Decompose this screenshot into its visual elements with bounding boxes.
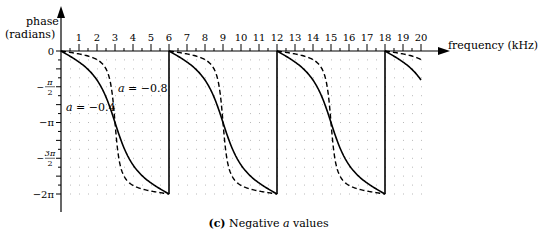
x-tick-label: 7 [184,32,190,43]
x-tick-label: 11 [253,32,266,43]
x-tick-label: 12 [271,32,284,43]
label-a-minus-0-4: a = −0.4 [66,102,115,113]
x-tick-label: 6 [166,32,172,43]
y-tick-label-den: 2 [47,159,52,168]
x-tick-label: 13 [289,32,302,43]
y-tick-label-den: 2 [47,88,52,97]
y-tick-label: 0 [48,46,54,57]
x-tick-label: 15 [325,32,338,43]
y-tick-label-sign: − [36,153,44,163]
x-tick-label: 4 [130,32,136,43]
y-tick-label-sign: − [36,82,44,92]
curve-a-minus-0-8 [277,51,385,194]
x-tick-label: 1 [76,32,82,43]
x-axis-label: frequency (kHz) [448,40,538,51]
grid-dots [70,60,422,194]
x-tick-label: 9 [220,32,226,43]
y-tick-label-num: 3π [45,149,56,158]
curve-a-minus-0-8 [385,51,421,60]
x-tick-label: 5 [148,32,154,43]
y-tick-label: −2π [33,189,55,200]
x-tick-label: 19 [397,32,410,43]
x-tick-label: 3 [112,32,118,43]
y-axis-label-line2: (radians) [5,29,55,40]
curve-a-minus-0-8 [169,51,277,194]
x-tick-label: 20 [415,32,428,43]
label-a-minus-0-8: a = −0.8 [118,83,167,94]
y-axis-label-line1: phase [26,16,59,27]
figure-caption: (c) Negative a values [0,217,537,230]
y-tick-label-num: π [46,78,53,87]
curve-a-minus-0-4 [385,51,421,80]
x-tick-label: 10 [235,32,248,43]
x-tick-label: 17 [361,32,374,43]
x-tick-label: 2 [94,32,100,43]
x-tick-label: 14 [307,32,320,43]
x-tick-label: 18 [379,32,392,43]
curve-a-minus-0-8 [61,51,169,194]
y-tick-label: −π [39,117,54,128]
x-tick-label: 16 [343,32,356,43]
x-tick-label: 8 [202,32,208,43]
